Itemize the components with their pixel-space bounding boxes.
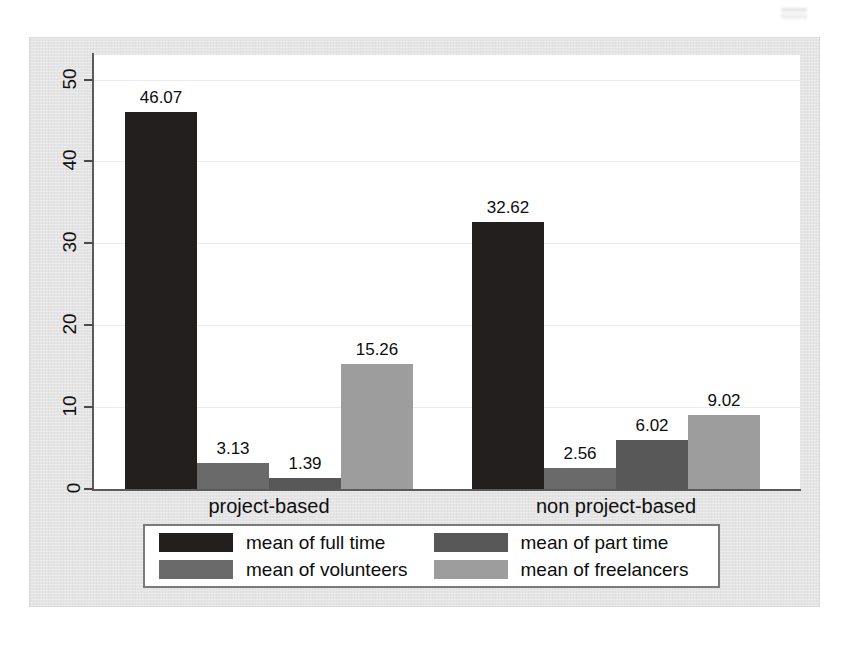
bar [616, 440, 688, 489]
bar-value-label: 1.39 [261, 454, 349, 474]
grid-line [93, 161, 800, 162]
y-tick-label: 30 [0, 231, 80, 253]
y-tick-label: 20 [0, 313, 80, 335]
legend-entry: mean of freelancers [434, 559, 709, 581]
scan-artifact [781, 8, 807, 20]
bar [197, 463, 269, 489]
y-tick-label: 10 [0, 395, 80, 417]
legend-label: mean of full time [246, 532, 385, 554]
legend-label: mean of part time [521, 532, 669, 554]
legend-entry: mean of full time [159, 532, 434, 554]
grid-line [93, 243, 800, 244]
bar-value-label: 9.02 [680, 391, 768, 411]
bar [125, 112, 197, 489]
bar-value-label: 6.02 [608, 416, 696, 436]
bar [544, 468, 616, 489]
bar-value-label: 15.26 [333, 340, 421, 360]
bar [472, 222, 544, 489]
y-tick-label: 40 [0, 149, 80, 171]
bar-value-label: 32.62 [464, 198, 552, 218]
x-axis-category-label: non project-based [476, 495, 756, 518]
y-axis-line [92, 53, 94, 491]
legend-entry: mean of volunteers [159, 559, 434, 581]
legend-color-swatch [434, 533, 508, 552]
y-tick-mark [84, 488, 93, 490]
legend-color-swatch [159, 560, 233, 579]
legend-label: mean of freelancers [521, 559, 689, 581]
legend-color-swatch [434, 560, 508, 579]
legend-color-swatch [159, 533, 233, 552]
x-axis-line [92, 489, 801, 491]
y-tick-mark [84, 160, 93, 162]
y-tick-mark [84, 406, 93, 408]
scanned-page: 01020304050 46.073.131.3915.2632.622.566… [0, 0, 847, 645]
x-axis-category-label: project-based [129, 495, 409, 518]
chart-legend: mean of full timemean of part timemean o… [143, 524, 720, 588]
bar [688, 415, 760, 489]
grid-line [93, 325, 800, 326]
legend-label: mean of volunteers [246, 559, 408, 581]
bar-value-label: 2.56 [536, 444, 624, 464]
grid-line [93, 80, 800, 81]
y-tick-mark [84, 242, 93, 244]
y-tick-mark [84, 79, 93, 81]
bar [269, 478, 341, 489]
y-tick-label: 0 [0, 477, 80, 499]
y-tick-label: 50 [0, 68, 80, 90]
legend-entry: mean of part time [434, 532, 709, 554]
bar-value-label: 46.07 [117, 88, 205, 108]
y-tick-mark [84, 324, 93, 326]
bar [341, 364, 413, 489]
